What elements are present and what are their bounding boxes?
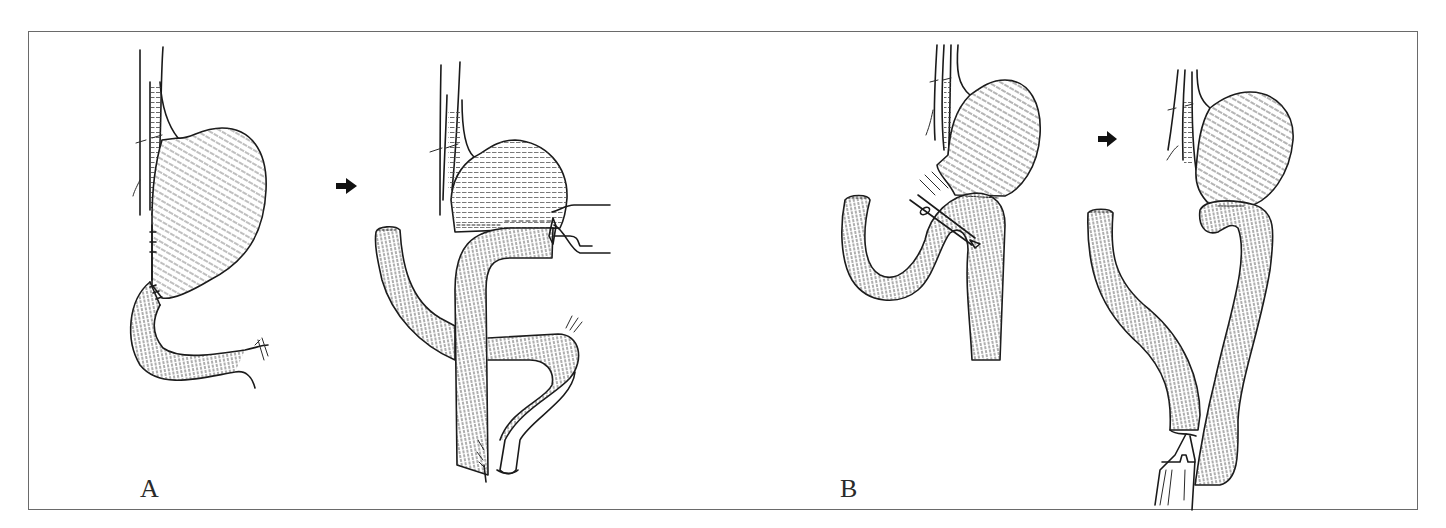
panel-b-step-1 bbox=[842, 45, 1040, 360]
right-arrow-icon bbox=[336, 178, 357, 194]
panel-a-step-1 bbox=[131, 47, 268, 388]
panel-a-step-2 bbox=[375, 62, 610, 482]
panel-label-a: A bbox=[140, 476, 159, 502]
surgical-illustration bbox=[0, 0, 1446, 528]
right-arrow-icon bbox=[1098, 131, 1117, 147]
panel-label-b: B bbox=[840, 476, 857, 502]
panel-b-step-2 bbox=[1088, 70, 1293, 510]
